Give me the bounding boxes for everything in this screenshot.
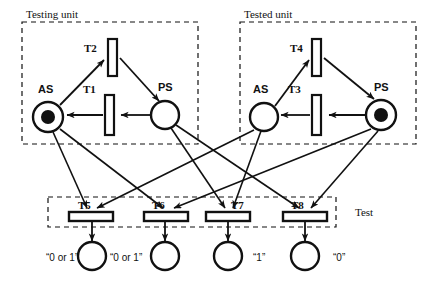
transition-t3-label: T3: [288, 83, 301, 95]
transition-t4[interactable]: T4: [290, 39, 321, 76]
arc-ps-tested-to-t8: [311, 131, 378, 208]
transition-t4-bar[interactable]: [312, 39, 321, 76]
transition-t8-label: T8: [291, 199, 304, 211]
place-p8[interactable]: “0”: [291, 242, 345, 270]
test-label: Test: [355, 206, 373, 218]
place-ps-tested-label: PS: [374, 81, 389, 93]
transition-t3[interactable]: T3: [288, 83, 321, 135]
petri-net-diagram: Testing unit Tested unit Test: [0, 0, 428, 284]
transition-t6-label: T6: [152, 199, 165, 211]
place-p6[interactable]: “0 or 1”: [110, 242, 179, 270]
place-p5[interactable]: “0 or 1”: [46, 242, 106, 270]
place-p6-value: “0 or 1”: [110, 252, 142, 263]
arc-as-testing-to-t6: [60, 129, 163, 208]
place-as-testing-token: [41, 110, 55, 124]
transition-t3-bar[interactable]: [312, 95, 321, 135]
arc-t4-to-ps-tested: [324, 58, 374, 99]
arc-t2-to-ps-testing: [120, 58, 159, 101]
transition-t5-bar[interactable]: [69, 212, 113, 221]
place-p7-value: “1”: [253, 252, 265, 263]
transition-t2-bar[interactable]: [108, 39, 117, 76]
place-ps-testing-label: PS: [158, 81, 173, 93]
place-p5-circle[interactable]: [78, 242, 106, 270]
transition-t6-bar[interactable]: [144, 212, 188, 221]
transition-t7[interactable]: T7: [206, 199, 250, 221]
transition-t5-label: T5: [78, 199, 91, 211]
transition-t1[interactable]: T1: [83, 83, 114, 135]
place-p8-value: “0”: [333, 252, 345, 263]
transition-t1-label: T1: [83, 83, 96, 95]
place-as-tested[interactable]: AS: [250, 83, 278, 131]
transition-t6[interactable]: T6: [144, 199, 188, 221]
tested-unit-label: Tested unit: [244, 8, 292, 20]
transition-t7-label: T7: [231, 199, 244, 211]
transition-t4-label: T4: [290, 42, 303, 54]
place-p5-value: “0 or 1”: [46, 252, 78, 263]
place-ps-tested[interactable]: PS: [366, 81, 396, 130]
place-as-testing-label: AS: [38, 83, 53, 95]
transition-t2-label: T2: [84, 42, 97, 54]
arc-as-tested-to-t5: [97, 130, 254, 208]
place-p7-circle[interactable]: [214, 242, 242, 270]
place-ps-tested-token: [374, 108, 388, 122]
transition-t8-bar[interactable]: [283, 212, 327, 221]
testing-unit-label: Testing unit: [26, 8, 78, 20]
transition-t5[interactable]: T5: [69, 199, 113, 221]
arc-as-testing-to-t2: [60, 60, 104, 105]
place-p6-circle[interactable]: [151, 242, 179, 270]
petri-net-canvas: Testing unit Tested unit Test: [0, 0, 428, 284]
place-p8-circle[interactable]: [291, 242, 319, 270]
place-as-tested-outer[interactable]: [250, 103, 278, 131]
transition-t1-bar[interactable]: [105, 95, 114, 135]
place-as-testing[interactable]: AS: [33, 83, 63, 132]
transition-t7-bar[interactable]: [206, 212, 250, 221]
place-ps-testing[interactable]: PS: [151, 81, 179, 129]
place-p7[interactable]: “1”: [214, 242, 265, 270]
transition-t2[interactable]: T2: [84, 39, 117, 76]
place-ps-testing-outer[interactable]: [151, 101, 179, 129]
place-as-tested-label: AS: [253, 83, 268, 95]
arc-ps-tested-to-t6: [174, 129, 371, 208]
